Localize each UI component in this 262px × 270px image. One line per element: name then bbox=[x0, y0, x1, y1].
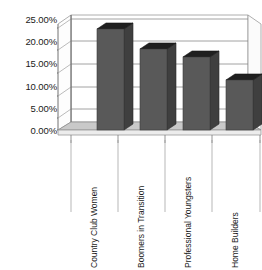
x-axis-tick-label: Professional Youngsters bbox=[182, 140, 195, 268]
y-axis-tick-label: 15.00% bbox=[0, 59, 57, 69]
x-axis-tick-label: Home Builders bbox=[229, 140, 242, 268]
bar-side-face bbox=[210, 51, 219, 130]
y-axis-tick-label: 25.00% bbox=[0, 15, 57, 25]
bar-side-face bbox=[167, 43, 176, 130]
floor-front-edge bbox=[58, 130, 261, 135]
x-axis-label-slot: Professional Youngsters bbox=[182, 140, 196, 268]
bar-front-face bbox=[226, 80, 253, 130]
y-axis-tick-label: 0.00% bbox=[0, 126, 57, 136]
bar-side-face bbox=[124, 23, 133, 130]
y-axis-tick-label: 5.00% bbox=[0, 104, 57, 114]
y-axis-tick-label: 10.00% bbox=[0, 82, 57, 92]
x-axis-category-labels: Country Club Women Boomers in Transition… bbox=[57, 140, 262, 270]
plot-area bbox=[57, 8, 262, 143]
bar-front-face bbox=[97, 29, 124, 130]
x-axis-tick-label: Country Club Women bbox=[88, 140, 101, 268]
x-axis-label-slot: Home Builders bbox=[229, 140, 243, 268]
bar-front-face bbox=[140, 49, 167, 130]
y-axis-tick-label: 20.00% bbox=[0, 37, 57, 47]
bar-boomers-in-transition bbox=[140, 43, 176, 130]
bar-country-club-women bbox=[97, 23, 133, 130]
bar-professional-youngsters bbox=[183, 51, 219, 130]
bar-home-builders bbox=[226, 74, 262, 130]
x-axis-label-slot: Country Club Women bbox=[88, 140, 102, 268]
y-axis-tick-labels: 25.00% 20.00% 15.00% 10.00% 5.00% 0.00% bbox=[0, 0, 57, 270]
x-axis-tick-label: Boomers in Transition bbox=[135, 140, 148, 268]
bar-side-face bbox=[253, 74, 262, 130]
x-axis-label-slot: Boomers in Transition bbox=[135, 140, 149, 268]
bar-front-face bbox=[183, 57, 210, 130]
left-wall bbox=[58, 15, 71, 130]
bar-chart: 25.00% 20.00% 15.00% 10.00% 5.00% 0.00% bbox=[0, 0, 262, 270]
